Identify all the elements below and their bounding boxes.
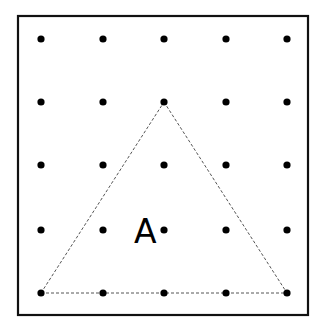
grid-dot [99,161,106,168]
grid-dot [37,289,44,296]
grid-dot [283,161,290,168]
grid-dot [222,289,229,296]
grid-dot [99,289,106,296]
grid-dot [160,98,167,105]
grid-dot [160,289,167,296]
grid-dot [37,226,44,233]
grid-dot [160,161,167,168]
grid-dot [99,98,106,105]
grid-dot [99,226,106,233]
grid-dot [37,98,44,105]
shape-label: A [134,212,157,251]
grid-dot [283,226,290,233]
grid-dot [283,98,290,105]
grid-dot [99,35,106,42]
grid-dot [37,161,44,168]
grid-dot [283,35,290,42]
grid-dot [222,161,229,168]
geoboard-diagram: A [0,0,319,336]
grid-dot [222,226,229,233]
grid-dot [283,289,290,296]
grid-dot [222,35,229,42]
grid-dot [160,226,167,233]
grid-dot [160,35,167,42]
grid-dot [222,98,229,105]
grid-dot [37,35,44,42]
